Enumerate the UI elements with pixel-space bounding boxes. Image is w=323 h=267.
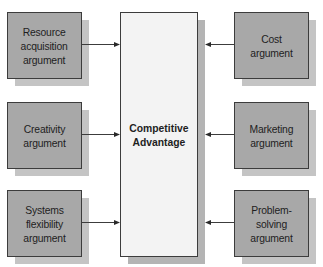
connector-arrows (0, 0, 323, 267)
